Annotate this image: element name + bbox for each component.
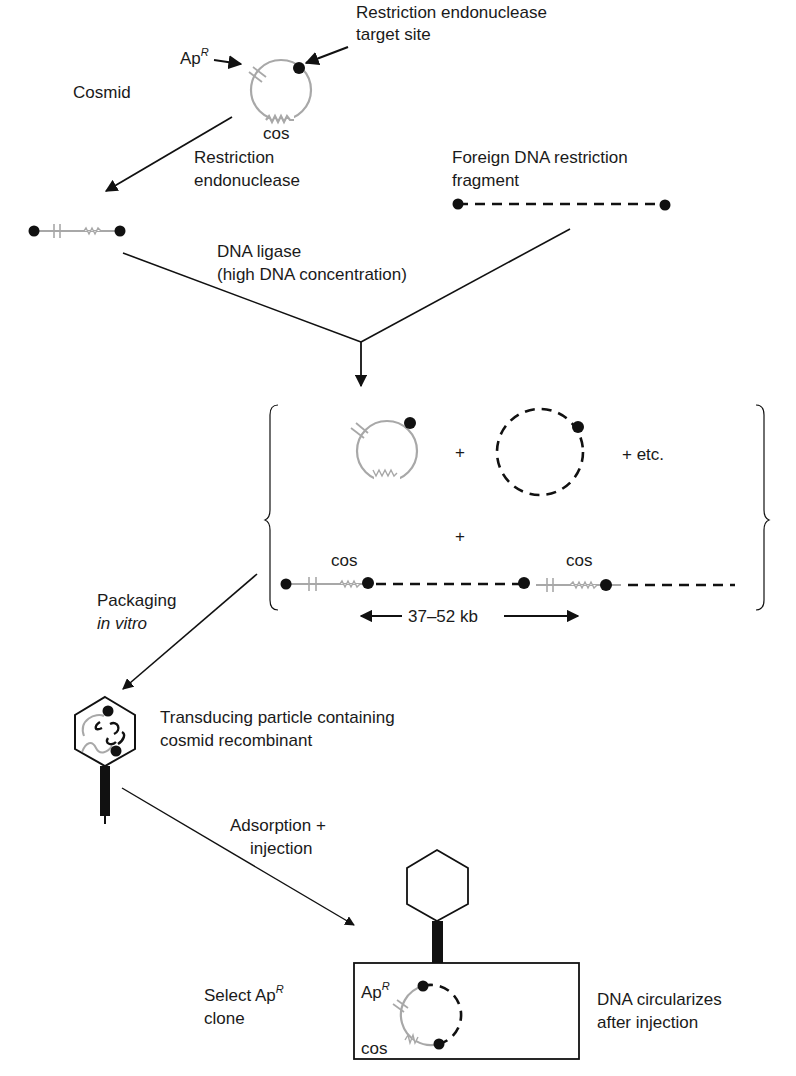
cosmid-label: Cosmid [73, 83, 131, 102]
cosmid-cloning-diagram: Cosmid ApR Restriction endonuclease targ… [0, 0, 796, 1076]
target-site-label-line1: Restriction endonuclease [356, 3, 547, 22]
ligase-step-line1: DNA ligase [217, 242, 301, 261]
particle-label-line2: cosmid recombinant [160, 731, 312, 750]
plus-1: + [455, 443, 465, 462]
circularize-label-line2: after injection [597, 1013, 698, 1032]
target-site-pointer-arrow [306, 47, 348, 63]
transducing-particle-icon [75, 697, 135, 824]
circularized-foreign-dna [497, 409, 584, 495]
packaging-label-line1: Packaging [97, 591, 176, 610]
left-brace [265, 405, 278, 610]
adsorption-label-line2: injection [250, 839, 312, 858]
recircularized-cosmid [351, 417, 417, 486]
cell-cos-label: cos [361, 1039, 387, 1058]
restriction-step-line1: Restriction [194, 148, 274, 167]
adsorption-label-line1: Adsorption + [230, 816, 326, 835]
ligase-step-line2: (high DNA concentration) [217, 265, 407, 284]
select-label-line2: clone [204, 1009, 245, 1028]
foreign-dna-label-line2: fragment [452, 171, 519, 190]
linearized-cosmid [29, 224, 126, 238]
apr-pointer-arrow [214, 60, 241, 64]
adsorbed-phage-icon [407, 850, 468, 964]
concatemer-dna [281, 577, 736, 592]
plus-2: + [455, 527, 465, 546]
cos-label: cos [263, 124, 289, 143]
adsorption-arrow [122, 788, 354, 925]
restriction-site-dot [293, 62, 305, 74]
select-label-line1: Select ApR [204, 983, 284, 1005]
right-brace [756, 405, 769, 610]
packaging-label-line2: in vitro [97, 614, 147, 633]
host-cell-box [354, 963, 579, 1059]
size-range-label: 37–52 kb [408, 607, 478, 626]
foreign-dna-fragment [453, 199, 671, 211]
foreign-dna-label-line1: Foreign DNA restriction [452, 148, 628, 167]
circularize-label-line1: DNA circularizes [597, 990, 722, 1009]
restriction-step-line2: endonuclease [194, 171, 300, 190]
ligase-right-line [361, 229, 570, 342]
plus-etc: + etc. [622, 445, 664, 464]
target-site-label-line2: target site [356, 25, 431, 44]
concatemer-cos-left: cos [331, 551, 357, 570]
concatemer-cos-right: cos [566, 551, 592, 570]
cosmid-circle [249, 60, 311, 126]
particle-label-line1: Transducing particle containing [160, 708, 395, 727]
apr-label: ApR [180, 46, 209, 68]
